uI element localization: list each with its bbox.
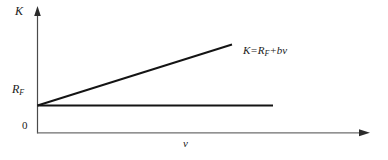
equation-subscript: F — [264, 49, 269, 58]
series-line-cost-of-capital — [38, 45, 233, 106]
intercept-label-subscript: F — [19, 88, 24, 97]
x-axis-label: v — [183, 138, 188, 149]
y-axis-label: K — [15, 5, 23, 17]
intercept-label: RF — [12, 83, 24, 95]
chart-plot-area — [0, 0, 388, 160]
equation-part-one: K=R — [243, 44, 264, 56]
equation-annotation: K=RF+bv — [243, 45, 287, 56]
x-axis-arrowhead-icon — [359, 129, 370, 136]
y-axis-arrowhead-icon — [34, 6, 41, 16]
equation-part-two: +bv — [269, 44, 287, 56]
y-axis — [34, 6, 41, 134]
chart-figure: K v 0 RF K=RF+bv — [0, 0, 388, 160]
x-axis — [38, 129, 371, 136]
origin-label: 0 — [22, 120, 28, 131]
